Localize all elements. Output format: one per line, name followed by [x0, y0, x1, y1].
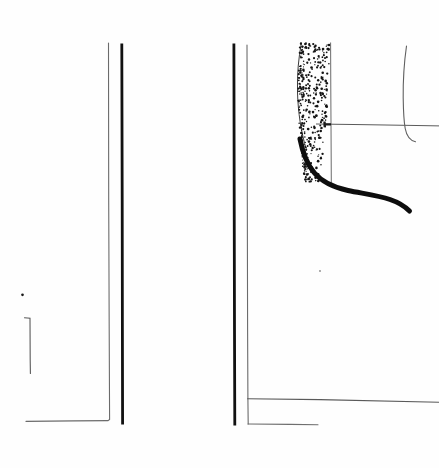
- stipple-dot: [325, 85, 327, 87]
- stipple-dot: [301, 75, 303, 77]
- stipple-dot: [300, 66, 301, 67]
- stipple-dot: [305, 99, 307, 101]
- stipple-dot: [326, 51, 328, 53]
- stipple-dot: [323, 66, 325, 68]
- stipple-dot: [308, 140, 311, 143]
- stipple-dot: [300, 68, 302, 70]
- stipple-dot: [307, 94, 309, 96]
- stipple-dot: [318, 47, 320, 49]
- left-corner-bracket: [25, 318, 31, 374]
- stipple-dot: [322, 142, 323, 143]
- stipple-dot: [314, 109, 315, 110]
- stipple-dot: [304, 47, 305, 48]
- stipple-dot: [320, 87, 323, 90]
- stipple-dot: [317, 181, 318, 182]
- stipple-dot: [303, 162, 304, 163]
- stipple-dot: [316, 84, 318, 86]
- stipple-dot: [301, 130, 302, 131]
- stipple-dot: [312, 102, 314, 104]
- stipple-dot: [302, 92, 304, 94]
- stipple-dot: [305, 87, 307, 89]
- stipple-dot: [306, 121, 307, 122]
- stipple-dot: [325, 119, 327, 121]
- stipple-dot: [319, 148, 321, 150]
- stipple-dot: [306, 149, 307, 150]
- stipple-dot: [315, 167, 318, 170]
- stipple-dot: [326, 44, 327, 45]
- stipple-dot: [328, 44, 330, 46]
- stipple-dot: [323, 54, 325, 56]
- stipple-dot: [309, 95, 311, 97]
- stipple-dot: [326, 49, 327, 50]
- left-thin-vertical-rule: [26, 43, 110, 421]
- stipple-dot: [318, 154, 319, 155]
- right-upper-baseline: [248, 399, 439, 402]
- stipple-dot: [318, 55, 320, 57]
- stipple-dot: [322, 64, 324, 66]
- stipple-dot: [301, 119, 303, 121]
- stipple-dot: [319, 125, 321, 127]
- stipple-dot: [322, 110, 324, 112]
- faint-ink-speck: [319, 270, 321, 272]
- stipple-dot: [308, 112, 309, 113]
- stipple-dot: [301, 72, 302, 73]
- stipple-dot: [300, 56, 301, 57]
- stipple-dot: [313, 92, 315, 94]
- stipple-dot: [313, 145, 315, 147]
- stipple-dot: [324, 61, 326, 63]
- stipple-dot: [304, 43, 307, 46]
- stipple-dot: [324, 57, 326, 59]
- stipple-dot: [310, 66, 313, 69]
- stipple-dot: [306, 62, 308, 64]
- left-ink-dot: [21, 293, 24, 296]
- stipple-dot: [306, 169, 307, 170]
- stipple-dot: [312, 43, 314, 45]
- stipple-dot: [321, 100, 323, 102]
- stipple-dot: [311, 147, 313, 149]
- stipple-dot: [313, 97, 315, 99]
- stipple-dot: [300, 105, 302, 107]
- stipple-dot: [301, 51, 303, 53]
- stipple-dot: [301, 57, 302, 58]
- stipple-dot: [304, 178, 306, 180]
- stipple-dot: [325, 105, 327, 107]
- stipple-dot: [314, 137, 316, 139]
- cross-section-group: [297, 42, 439, 272]
- stipple-dot: [326, 82, 329, 85]
- stipple-dot: [317, 101, 320, 104]
- stipple-dot: [305, 181, 307, 183]
- stipple-dot: [303, 125, 305, 127]
- stipple-dot: [300, 43, 301, 44]
- scanned-drawing-page: [0, 0, 439, 468]
- stipple-dot: [311, 138, 312, 139]
- stipple-dot: [323, 117, 325, 119]
- stipple-dot: [300, 103, 302, 105]
- stipple-dot: [323, 52, 325, 54]
- stipple-dot: [306, 166, 307, 167]
- stipple-dot: [303, 61, 304, 62]
- stipple-dot: [323, 95, 325, 97]
- stipple-dot: [313, 50, 316, 53]
- stipple-right-boundary: [331, 43, 332, 184]
- right-section-group: [234, 44, 439, 426]
- stipple-dot: [299, 52, 301, 54]
- stipple-dot: [304, 90, 306, 92]
- stipple-dot: [298, 79, 300, 81]
- stipple-dot: [314, 77, 316, 79]
- stipple-dot: [321, 128, 322, 129]
- stipple-dot: [318, 110, 320, 112]
- stipple-dot: [305, 74, 307, 76]
- stipple-dot: [307, 128, 310, 131]
- stipple-dot: [321, 153, 323, 155]
- stipple-dot: [301, 134, 302, 135]
- stipple-dot: [304, 136, 306, 138]
- stipple-dot: [316, 149, 317, 150]
- stipple-dot: [316, 105, 319, 108]
- stipple-dot: [321, 77, 324, 80]
- stipple-dot: [311, 149, 313, 151]
- stipple-dot: [320, 81, 322, 83]
- stipple-dot: [298, 73, 300, 75]
- stipple-dot: [317, 79, 319, 81]
- stipple-dot: [305, 108, 307, 110]
- stipple-dot: [314, 146, 316, 148]
